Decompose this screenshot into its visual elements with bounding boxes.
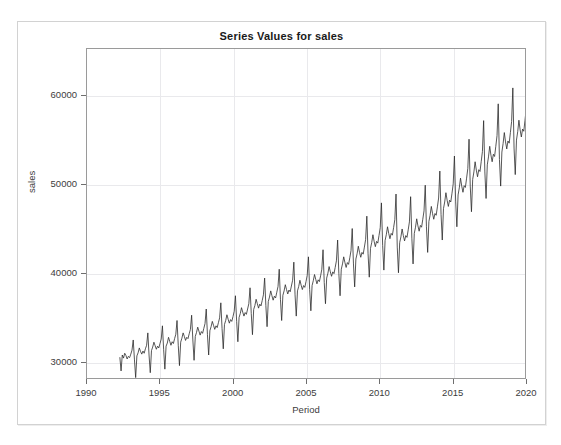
y-axis-tick: [81, 273, 86, 274]
chart-title: Series Values for sales: [18, 30, 545, 42]
x-axis-tick: [453, 379, 454, 384]
x-axis-tick: [379, 379, 380, 384]
x-axis-label: 2010: [359, 387, 399, 398]
x-axis-label: 2005: [286, 387, 326, 398]
y-axis-label: 40000: [18, 267, 77, 278]
series-polyline: [120, 56, 525, 377]
x-axis-title: Period: [86, 404, 526, 415]
y-axis-title: sales: [26, 171, 37, 193]
chart-window: Series Values for sales 3000040000500006…: [17, 21, 546, 425]
x-axis-label: 2020: [506, 387, 546, 398]
y-axis-tick: [81, 184, 86, 185]
y-axis-tick: [81, 95, 86, 96]
x-axis-tick: [233, 379, 234, 384]
x-axis-tick: [526, 379, 527, 384]
x-axis-tick: [86, 379, 87, 384]
x-axis-label: 1990: [66, 387, 106, 398]
x-axis-label: 2015: [433, 387, 473, 398]
y-axis-label: 60000: [18, 89, 77, 100]
series-line-chart: [87, 49, 525, 378]
y-axis-tick: [81, 362, 86, 363]
x-axis-tick: [306, 379, 307, 384]
y-axis-label: 30000: [18, 356, 77, 367]
x-axis-label: 2000: [213, 387, 253, 398]
plot-area: [86, 48, 526, 379]
x-axis-label: 1995: [139, 387, 179, 398]
x-axis-tick: [159, 379, 160, 384]
